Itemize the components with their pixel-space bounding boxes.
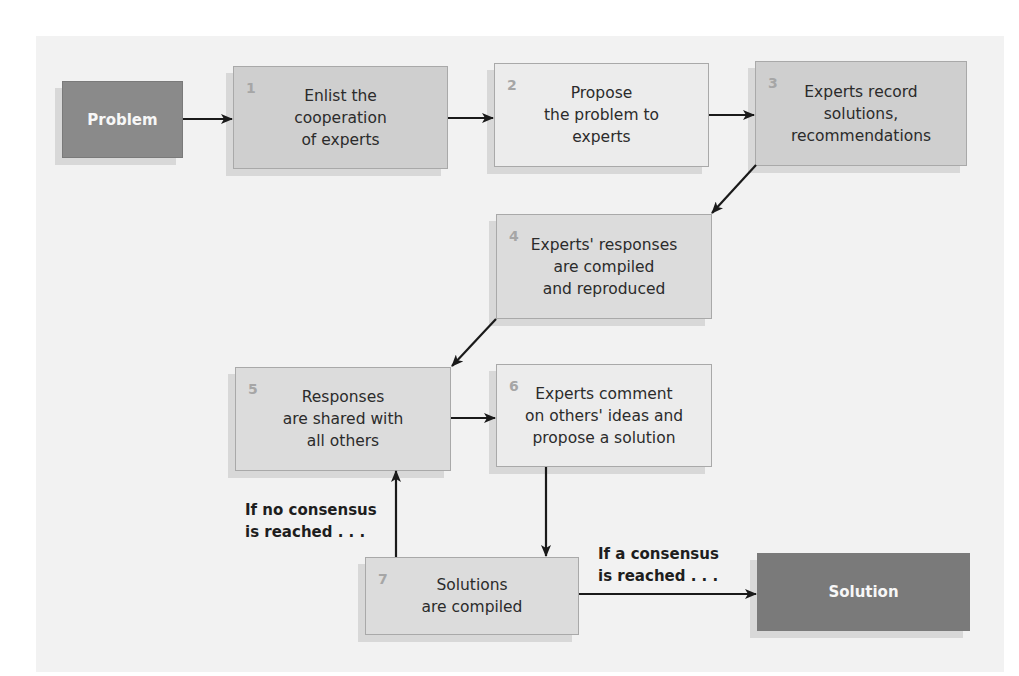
step-3-number: 3 [768,72,778,94]
step-3-box: 3 Experts record solutions, recommendati… [755,61,967,166]
step-4-number: 4 [509,225,519,247]
step-3-text: Experts record solutions, recommendation… [777,81,945,147]
step-6-number: 6 [509,375,519,397]
solution-box: Solution [757,553,970,631]
step-1-box: 1 Enlist the cooperation of experts [233,66,448,169]
step-4-box: 4 Experts' responses are compiled and re… [496,214,712,319]
step-6-box: 6 Experts comment on others' ideas and p… [496,364,712,467]
no-consensus-label: If no consensus is reached . . . [245,499,377,543]
consensus-label: If a consensus is reached . . . [598,543,719,587]
step-7-text: Solutions are compiled [408,574,537,618]
step-6-text: Experts comment on others' ideas and pro… [511,383,697,449]
step-1-number: 1 [246,77,256,99]
step-4-text: Experts' responses are compiled and repr… [517,234,692,300]
solution-label: Solution [814,581,912,603]
step-5-box: 5 Responses are shared with all others [235,367,451,471]
problem-box: Problem [62,81,183,158]
problem-label: Problem [73,109,171,131]
step-2-number: 2 [507,74,517,96]
step-7-number: 7 [378,568,388,590]
step-5-number: 5 [248,378,258,400]
step-2-box: 2 Propose the problem to experts [494,63,709,167]
step-7-box: 7 Solutions are compiled [365,557,579,635]
step-1-text: Enlist the cooperation of experts [280,85,400,151]
step-5-text: Responses are shared with all others [269,386,418,452]
step-2-text: Propose the problem to experts [530,82,673,148]
